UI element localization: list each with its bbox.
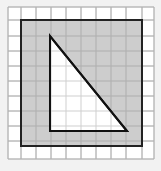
grid-diagram: [0, 0, 161, 171]
